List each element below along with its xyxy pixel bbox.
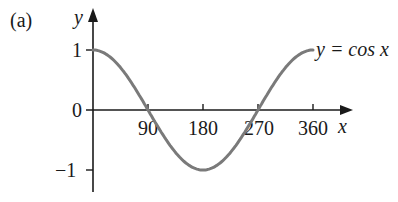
y-tick-label-neg1: −1 bbox=[55, 159, 76, 181]
part-label: (a) bbox=[10, 9, 32, 32]
x-tick-label-360: 360 bbox=[298, 117, 328, 139]
x-tick-label-180: 180 bbox=[188, 117, 218, 139]
chart-canvas: (a) y x 1 0 −1 90 180 270 360 y = cos x bbox=[0, 0, 398, 202]
y-tick-label-0: 0 bbox=[72, 99, 82, 121]
x-axis-arrow-icon bbox=[340, 105, 353, 115]
cosine-graph-figure: (a) y x 1 0 −1 90 180 270 360 y = cos x bbox=[0, 0, 398, 202]
curve-label-text: y = cos x bbox=[314, 38, 389, 61]
y-axis-arrow-icon bbox=[88, 8, 98, 22]
curve-label: y = cos x bbox=[314, 38, 389, 61]
y-tick-label-1: 1 bbox=[72, 39, 82, 61]
y-axis-label: y bbox=[72, 6, 83, 29]
x-axis-label: x bbox=[337, 115, 347, 137]
